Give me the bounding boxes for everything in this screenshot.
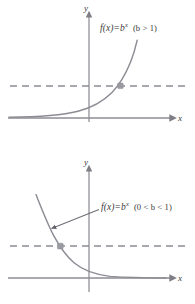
decay-curve-equation-label: f(x)=bx (0 < b < 1): [101, 203, 172, 213]
decay-function-name: f(x): [101, 202, 115, 212]
label-leader-arrow: [52, 210, 100, 229]
y-axis-label: y: [84, 158, 88, 167]
decay-exponent-symbol: x: [126, 200, 129, 207]
exponential-growth-panel: y x f(x)=bx (b > 1): [0, 0, 195, 152]
growth-plot-svg: [0, 0, 195, 152]
growth-function-name: f(x): [100, 23, 114, 33]
exponential-functions-figure: y x f(x)=bx (b > 1): [0, 0, 195, 304]
x-axis-label: x: [178, 114, 182, 123]
exponential-decay-panel: y x f(x)=bx (0 < b < 1): [0, 152, 195, 304]
intersection-marker: [118, 83, 124, 89]
decay-base-condition: (0 < b < 1): [134, 202, 172, 212]
growth-exponent-symbol: x: [125, 21, 128, 28]
growth-base-condition: (b > 1): [133, 23, 157, 33]
intersection-marker: [57, 243, 63, 249]
decay-plot-svg: [0, 152, 195, 304]
x-axis-label: x: [178, 274, 182, 283]
growth-curve: [9, 40, 137, 117]
growth-curve-equation-label: f(x)=bx (b > 1): [100, 24, 157, 34]
y-axis-label: y: [84, 4, 88, 13]
